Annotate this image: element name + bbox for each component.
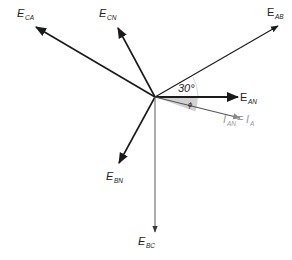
- angle-phi-label: ϕ: [188, 100, 192, 109]
- phasor-e-bn: [119, 97, 155, 163]
- svg-text:A: A: [249, 120, 254, 127]
- label-e-cn: E CN: [99, 7, 117, 21]
- label-e-bc: E BC: [138, 235, 155, 249]
- svg-text:E: E: [138, 235, 146, 247]
- svg-text:E: E: [106, 170, 114, 182]
- label-e-bn: E BN: [106, 170, 123, 184]
- svg-text:=: =: [237, 112, 243, 124]
- svg-text:E: E: [17, 7, 25, 19]
- svg-text:AB: AB: [274, 13, 284, 20]
- svg-text:CN: CN: [107, 14, 117, 21]
- svg-text:AN: AN: [226, 120, 236, 127]
- label-e-ab: E AB: [267, 6, 284, 20]
- label-e-ca: E CA: [17, 7, 34, 21]
- svg-text:AN: AN: [247, 98, 257, 105]
- phasor-diagram: E CA E CN E AB E AN I AN = I A E BN E BC…: [0, 0, 292, 260]
- svg-text:CA: CA: [25, 14, 34, 21]
- label-e-an: E AN: [240, 91, 257, 105]
- svg-text:BC: BC: [146, 242, 155, 249]
- svg-text:E: E: [267, 6, 274, 18]
- svg-text:BN: BN: [114, 177, 123, 184]
- svg-text:I: I: [223, 113, 226, 125]
- label-i-an-equals-i-a: I AN = I A: [223, 112, 254, 127]
- svg-text:E: E: [99, 7, 107, 19]
- phasor-e-ca: [36, 27, 155, 97]
- svg-text:I: I: [246, 113, 249, 125]
- angle-30-label: 30°: [178, 82, 195, 94]
- phasor-e-ab: [155, 26, 278, 97]
- svg-text:E: E: [240, 91, 247, 103]
